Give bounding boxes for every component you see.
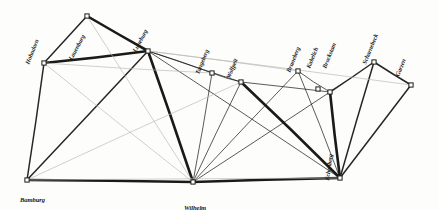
edge-hohndorn-luneburg [44, 51, 148, 63]
station-marker-icon [239, 80, 243, 84]
station-node-echenberg[interactable] [338, 176, 342, 180]
station-node-hohndorn[interactable] [42, 61, 46, 65]
station-marker-icon [409, 83, 413, 87]
edge-hohndorn-bamburg [27, 63, 44, 180]
station-marker-icon [296, 69, 300, 73]
station-node-brockstam[interactable] [328, 90, 332, 94]
station-node-kabelich[interactable] [316, 87, 320, 91]
edge-wilhelm-brockstam [193, 92, 330, 182]
station-marker-icon [191, 180, 195, 184]
station-node-wilhelm[interactable] [191, 180, 195, 184]
station-marker-icon [372, 60, 376, 64]
network-canvas [0, 0, 438, 210]
station-marker-icon [42, 61, 46, 65]
station-label-bamburg: Bamburg [20, 196, 45, 203]
edge-garzen-echenberg [340, 85, 411, 178]
station-marker-icon [25, 178, 29, 182]
station-marker-icon [210, 71, 214, 75]
station-node-tangeberg[interactable] [210, 71, 214, 75]
station-node-scharnebeck[interactable] [372, 60, 376, 64]
station-node-bruneberg[interactable] [296, 69, 300, 73]
edge-layer [27, 16, 411, 182]
edge-bamburg-luneburg [27, 51, 148, 180]
edge-luneburg-echenberg [148, 51, 340, 178]
triangulation-figure: HohndornLauenburgLuneburgTangebergWolfpe… [0, 0, 438, 210]
edge-hohndorn-wilhelm [44, 63, 193, 182]
station-marker-icon [338, 176, 342, 180]
station-node-wolfpeit[interactable] [239, 80, 243, 84]
station-marker-icon [316, 87, 320, 91]
station-marker-icon [85, 14, 89, 18]
edge-bamburg-wilhelm [27, 180, 193, 182]
station-node-luneburg[interactable] [146, 49, 150, 53]
edge-tangeberg-wilhelm [193, 73, 212, 182]
station-marker-icon [328, 90, 332, 94]
station-label-wilhelm: Wilhelm [184, 204, 206, 210]
station-node-garzen[interactable] [409, 83, 413, 87]
station-node-bamburg[interactable] [25, 178, 29, 182]
station-node-lauenburg[interactable] [85, 14, 89, 18]
station-marker-icon [146, 49, 150, 53]
edge-wolfpeit-wilhelm [193, 82, 241, 182]
